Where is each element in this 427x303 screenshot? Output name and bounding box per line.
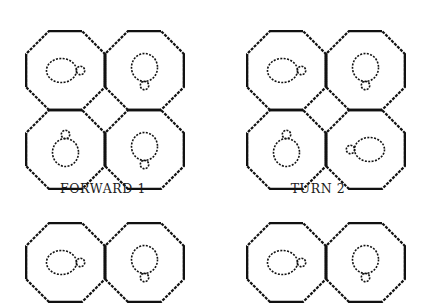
figure-forward-1 bbox=[25, 30, 185, 180]
turtle-icon-down bbox=[132, 54, 158, 90]
octagon-cell bbox=[326, 110, 405, 189]
octagon-cell bbox=[26, 110, 105, 189]
turtle-icon-right bbox=[268, 59, 306, 83]
octagon-cell bbox=[105, 223, 184, 302]
turtle-icon-down bbox=[132, 246, 158, 282]
octagon-tiling bbox=[25, 222, 185, 303]
turtle-icon-down bbox=[132, 133, 158, 169]
figure-bottom-right bbox=[246, 222, 406, 302]
octagon-cell bbox=[326, 31, 405, 110]
caption-turn-2: TURN 2 bbox=[291, 181, 346, 196]
octagon-tiling bbox=[246, 30, 406, 190]
turtle-icon-right bbox=[268, 251, 306, 275]
octagon-tiling bbox=[25, 30, 185, 190]
octagon-cell bbox=[247, 110, 326, 189]
figure-turn-2 bbox=[246, 30, 406, 180]
octagon-cell bbox=[326, 223, 405, 302]
turtle-icon-right bbox=[47, 251, 85, 275]
turtle-icon-right bbox=[47, 59, 85, 83]
octagon-cell bbox=[26, 31, 105, 110]
octagon-tiling bbox=[246, 222, 406, 303]
caption-forward-1: FORWARD 1 bbox=[60, 181, 146, 196]
octagon-cell bbox=[247, 223, 326, 302]
octagon-cell bbox=[26, 223, 105, 302]
turtle-icon-down bbox=[353, 54, 379, 90]
turtle-icon-left bbox=[346, 138, 384, 162]
turtle-icon-up bbox=[274, 130, 300, 166]
turtle-icon-down bbox=[353, 246, 379, 282]
octagon-cell bbox=[105, 31, 184, 110]
figure-bottom-left bbox=[25, 222, 185, 302]
octagon-cell bbox=[105, 110, 184, 189]
turtle-icon-up bbox=[53, 130, 79, 166]
octagon-cell bbox=[247, 31, 326, 110]
